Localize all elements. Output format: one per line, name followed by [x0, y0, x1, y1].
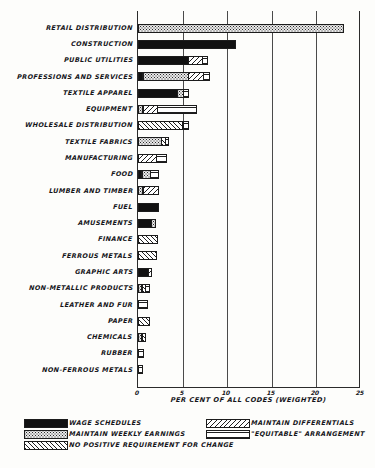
bar-segment-nochange [138, 251, 157, 260]
bar-segment-equitable [165, 137, 169, 146]
bar-segment-wage [138, 56, 189, 65]
bar-segment-equitable [138, 300, 148, 309]
legend-swatch-hatch-135 [206, 419, 250, 428]
bar-segment-differentials [143, 186, 159, 195]
category-label: TEXTILE APPAREL [63, 90, 133, 96]
category-label: PAPER [108, 318, 134, 324]
bar-row [138, 56, 208, 65]
category-label: TEXTILE FABRICS [65, 139, 133, 145]
plot-area [137, 11, 360, 388]
legend-label: MAINTAIN DIFFERENTIALS [251, 419, 355, 427]
x-tick-label: 20 [311, 389, 320, 396]
bar-segment-wage [138, 203, 159, 212]
bar-row [138, 251, 157, 260]
bar-segment-nochange [138, 235, 158, 244]
bar-row [138, 89, 189, 98]
legend-item: NO POSITIVE REQUIREMENT FOR CHANGE [24, 441, 234, 450]
bar-row [138, 154, 167, 163]
legend-swatch-hatch-45 [24, 441, 68, 450]
bar-row [138, 300, 148, 309]
bar-row [138, 268, 152, 277]
bar-segment-equitable [203, 72, 209, 81]
bar-segment-nochange [138, 121, 183, 130]
bar-row [138, 40, 236, 49]
category-label: CHEMICALS [87, 334, 133, 340]
bar-segment-nochange [138, 317, 150, 326]
bar-row [138, 72, 210, 81]
bar-segment-wage [138, 89, 178, 98]
bar-row [138, 349, 144, 358]
bar-row [138, 186, 159, 195]
legend-item: MAINTAIN DIFFERENTIALS [206, 419, 354, 428]
bar-segment-differentials [188, 72, 204, 81]
bar-row [138, 137, 169, 146]
bar-segment-wage [138, 40, 236, 49]
gridline-5 [183, 11, 184, 387]
category-label: CONSTRUCTION [71, 41, 133, 47]
category-label: FOOD [110, 171, 133, 177]
bar-segment-equitable [157, 105, 197, 114]
legend-swatch-horizontal-lines [206, 430, 250, 439]
category-label: LUMBER AND TIMBER [48, 188, 133, 194]
x-axis-title: PER CENT OF ALL CODES (WEIGHTED) [137, 396, 361, 404]
x-tick-label: 15 [266, 389, 275, 396]
legend-item: MAINTAIN WEEKLY EARNINGS [24, 430, 185, 439]
gridline-10 [227, 11, 228, 387]
bar-segment-weekly [143, 72, 189, 81]
bar-row [138, 333, 146, 342]
category-label: NON-FERROUS METALS [42, 367, 133, 373]
bar-row [138, 170, 159, 179]
category-label: MANUFACTURING [65, 155, 133, 161]
legend-label: "EQUITABLE" ARRANGEMENT [251, 430, 365, 438]
bar-row [138, 317, 150, 326]
bar-segment-differentials [143, 105, 158, 114]
bar-segment-weekly [151, 219, 155, 228]
legend-label: MAINTAIN WEEKLY EARNINGS [69, 430, 186, 438]
bar-row [138, 203, 159, 212]
x-tick-label: 25 [356, 389, 365, 396]
bar-chart: RETAIL DISTRIBUTIONCONSTRUCTIONPUBLIC UT… [0, 0, 375, 468]
category-label: RETAIL DISTRIBUTION [46, 25, 133, 31]
bar-segment-equitable [150, 170, 159, 179]
bar-row [138, 284, 150, 293]
bar-row [138, 219, 156, 228]
bar-segment-equitable [138, 349, 144, 358]
bar-segment-equitable [138, 365, 143, 374]
bar-segment-differentials [148, 268, 152, 277]
category-label: PUBLIC UTILITIES [63, 57, 133, 63]
category-label: RUBBER [101, 350, 133, 356]
bar-row [138, 235, 158, 244]
category-label: NON-METALLIC PRODUCTS [28, 285, 133, 291]
gridline-20 [316, 11, 317, 387]
category-label: WHOLESALE DISTRIBUTION [25, 122, 133, 128]
legend-item: WAGE SCHEDULES [24, 419, 141, 428]
legend-swatch-solid-black [24, 419, 68, 428]
gridline-15 [272, 11, 273, 387]
x-tick-label: 5 [179, 389, 184, 396]
legend-swatch-stipple-dots [24, 430, 68, 439]
bar-segment-equitable [145, 284, 149, 293]
bar-segment-weekly [138, 24, 344, 33]
bar-row [138, 365, 143, 374]
bar-row [138, 121, 189, 130]
bar-row [138, 24, 344, 33]
bar-segment-equitable [183, 121, 189, 130]
bar-segment-differentials [138, 154, 157, 163]
category-label: FUEL [113, 204, 133, 210]
legend-item: "EQUITABLE" ARRANGEMENT [206, 430, 365, 439]
category-label: FERROUS METALS [62, 253, 133, 259]
category-label: LEATHER AND FUR [60, 302, 133, 308]
bar-segment-differentials [188, 56, 203, 65]
legend-label: WAGE SCHEDULES [69, 419, 142, 427]
category-label: GRAPHIC ARTS [74, 269, 133, 275]
bar-row [138, 105, 197, 114]
x-tick-label: 10 [222, 389, 231, 396]
x-tick-label: 0 [135, 389, 140, 396]
bar-segment-equitable [202, 56, 207, 65]
category-label: EQUIPMENT [86, 106, 133, 112]
bar-segment-nochange [142, 333, 146, 342]
bar-segment-weekly [138, 137, 162, 146]
category-label: AMUSEMENTS [78, 220, 133, 226]
category-label: FINANCE [98, 236, 133, 242]
legend-label: NO POSITIVE REQUIREMENT FOR CHANGE [69, 441, 234, 449]
